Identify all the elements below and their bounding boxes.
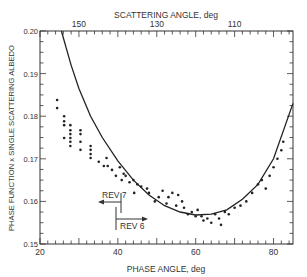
data-point xyxy=(227,213,230,216)
data-point xyxy=(63,120,66,123)
data-point xyxy=(69,124,72,127)
data-point xyxy=(124,175,127,178)
data-point xyxy=(120,179,123,182)
y-tick-label: 0.20 xyxy=(23,27,38,36)
data-point xyxy=(224,211,227,214)
data-point xyxy=(183,206,186,209)
data-point xyxy=(69,137,72,140)
data-point xyxy=(187,213,190,216)
data-point xyxy=(202,219,205,222)
data-point xyxy=(56,99,59,102)
data-point xyxy=(79,149,82,152)
top-tick-label: 150 xyxy=(72,19,86,29)
data-point xyxy=(264,187,267,190)
data-point xyxy=(245,200,248,203)
data-point xyxy=(103,165,106,168)
data-point xyxy=(239,204,242,207)
data-point xyxy=(63,124,66,127)
y-tick-label: 0.16 xyxy=(23,197,38,206)
data-point xyxy=(79,133,82,136)
data-point xyxy=(206,217,209,220)
data-point xyxy=(220,224,223,227)
data-point xyxy=(165,202,168,205)
plot-frame xyxy=(40,31,293,244)
rev7-label: REV 7 xyxy=(102,190,127,200)
x-axis-label: PHASE ANGLE, deg xyxy=(127,264,206,274)
top-tick-label: 110 xyxy=(228,19,242,29)
data-point xyxy=(79,129,82,132)
data-point xyxy=(167,196,170,199)
data-point xyxy=(233,206,236,209)
data-point xyxy=(97,160,100,163)
y-axis-label: PHASE FUNCTION x SINGLE SCATTERING ALBED… xyxy=(7,45,16,231)
data-point xyxy=(111,169,114,172)
data-point xyxy=(69,133,72,136)
data-point xyxy=(132,179,135,182)
data-point xyxy=(122,172,125,175)
data-point xyxy=(196,209,199,212)
data-point xyxy=(133,192,136,195)
data-point xyxy=(69,129,72,132)
x-tick-label: 60 xyxy=(191,247,201,257)
data-point xyxy=(115,175,118,178)
data-point xyxy=(69,145,72,148)
data-point xyxy=(175,204,178,207)
data-point xyxy=(140,185,143,188)
data-point xyxy=(194,215,197,218)
data-point xyxy=(214,213,217,216)
axis-labels: 204060800.150.160.170.180.190.2015013011… xyxy=(23,19,278,257)
data-point xyxy=(218,217,221,220)
data-point xyxy=(63,115,66,118)
data-point xyxy=(128,181,131,184)
data-point xyxy=(282,140,285,143)
data-point xyxy=(171,192,174,195)
data-point xyxy=(89,145,92,148)
top-axis-label: SCATTERING ANGLE, deg xyxy=(114,10,218,20)
data-point xyxy=(200,215,203,218)
data-point xyxy=(63,137,66,140)
data-point xyxy=(276,158,279,161)
data-point xyxy=(136,183,139,186)
x-tick-label: 40 xyxy=(113,247,123,257)
data-point xyxy=(210,221,213,224)
data-point xyxy=(268,175,271,178)
data-points xyxy=(56,99,285,226)
data-point xyxy=(161,189,164,192)
data-point xyxy=(257,183,260,186)
x-tick-label: 80 xyxy=(269,247,279,257)
data-point xyxy=(251,192,254,195)
data-point xyxy=(146,187,149,190)
chart: 204060800.150.160.170.180.190.2015013011… xyxy=(0,0,307,277)
data-point xyxy=(157,196,160,199)
data-point xyxy=(105,157,108,160)
model-curve xyxy=(61,31,293,215)
axis-ticks xyxy=(40,31,293,244)
rev6-label: REV 6 xyxy=(120,221,145,231)
data-point xyxy=(272,166,275,169)
data-point xyxy=(177,194,180,197)
data-point xyxy=(69,140,72,143)
data-point xyxy=(79,140,82,143)
annotations: REV 7REV 6 xyxy=(98,190,148,231)
y-tick-label: 0.18 xyxy=(23,112,38,121)
y-tick-label: 0.19 xyxy=(23,70,38,79)
top-tick-label: 130 xyxy=(150,19,164,29)
data-point xyxy=(118,166,121,169)
data-point xyxy=(89,157,92,160)
data-point xyxy=(89,149,92,152)
y-tick-label: 0.17 xyxy=(23,155,38,164)
data-point xyxy=(106,165,109,168)
data-point xyxy=(148,192,151,195)
data-point xyxy=(181,200,184,203)
data-point xyxy=(191,211,194,214)
data-point xyxy=(280,149,283,152)
data-point xyxy=(89,153,92,156)
y-tick-label: 0.15 xyxy=(23,240,38,249)
data-point xyxy=(154,200,157,203)
data-point xyxy=(261,179,264,182)
data-point xyxy=(56,107,59,110)
